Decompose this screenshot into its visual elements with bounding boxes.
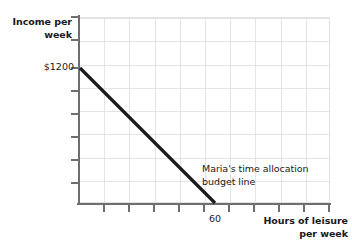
x-axis-title-line1: Hours of leisure: [263, 215, 348, 226]
budget-line-annotation: Maria's time allocation budget line: [202, 163, 334, 188]
budget-line-chart: Income per week $1200 60 Hours of leisur…: [0, 0, 352, 251]
budget-line-path: [80, 68, 215, 203]
y-axis-title: Income per week: [4, 16, 72, 41]
x-axis-tick-label-60: 60: [192, 213, 238, 224]
annotation-line2: budget line: [202, 176, 255, 187]
x-axis-title-line2: per week: [299, 228, 348, 239]
annotation-line1: Maria's time allocation: [202, 163, 308, 174]
y-axis-title-line1: Income per: [12, 16, 72, 27]
x-axis-title: Hours of leisure per week: [250, 215, 348, 240]
y-axis-tick-label-1200: $1200: [20, 61, 74, 72]
y-axis-title-line2: week: [44, 29, 72, 40]
